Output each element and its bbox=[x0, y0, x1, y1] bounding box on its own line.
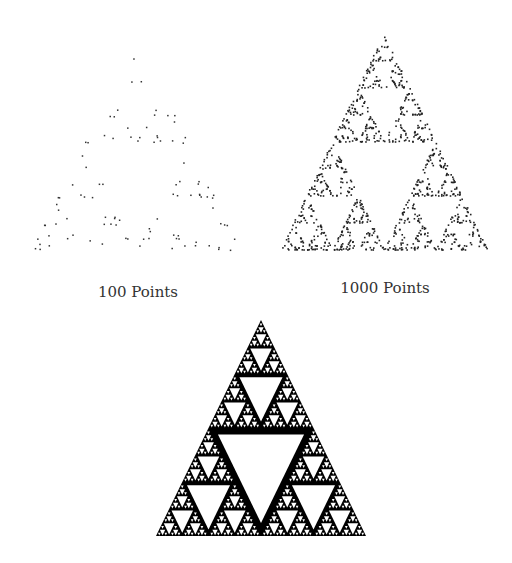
sierpinski-triangle-figure bbox=[0, 300, 512, 563]
caption-100-points: 100 Points bbox=[98, 283, 178, 301]
sierpinski-100-points-plot bbox=[0, 0, 260, 270]
sierpinski-1000-points-plot bbox=[260, 0, 512, 270]
caption-1000-points: 1000 Points bbox=[340, 279, 430, 297]
sierpinski-triangle-solid bbox=[0, 300, 512, 563]
chaos-game-1000-figure bbox=[260, 0, 512, 270]
chaos-game-100-figure bbox=[0, 0, 260, 270]
